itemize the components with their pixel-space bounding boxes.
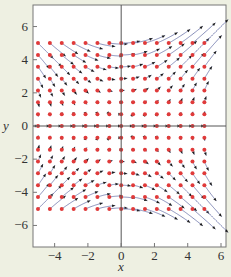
sample-point	[143, 65, 147, 69]
sample-point	[95, 53, 99, 57]
y-tick-label: 4	[22, 52, 29, 67]
sample-point	[190, 171, 194, 175]
sample-point	[179, 136, 183, 140]
sample-point	[36, 53, 40, 57]
sample-point	[107, 207, 111, 211]
sample-point	[48, 77, 52, 81]
sample-point	[72, 100, 76, 104]
sample-point	[84, 65, 88, 69]
sample-point	[167, 65, 171, 69]
sample-point	[179, 41, 183, 45]
sample-point	[95, 88, 99, 92]
sample-point	[155, 77, 159, 81]
sample-point	[107, 53, 111, 57]
sample-point	[60, 112, 64, 116]
sample-point	[72, 183, 76, 187]
sample-point	[190, 160, 194, 164]
sample-point	[72, 41, 76, 45]
x-tick-label: −4	[48, 248, 62, 263]
sample-point	[95, 171, 99, 175]
sample-point	[60, 183, 64, 187]
sample-point	[167, 207, 171, 211]
y-tick-label: −4	[14, 184, 28, 199]
sample-point	[84, 195, 88, 199]
sample-point	[190, 65, 194, 69]
sample-point	[131, 100, 135, 104]
sample-point	[131, 77, 135, 81]
sample-point	[84, 53, 88, 57]
x-tick-label: 6	[218, 248, 225, 263]
sample-point	[179, 53, 183, 57]
sample-point	[36, 88, 40, 92]
x-tick-label: −2	[81, 248, 95, 263]
y-tick-label: 0	[22, 118, 29, 133]
sample-point	[60, 77, 64, 81]
sample-point	[179, 207, 183, 211]
sample-point	[95, 183, 99, 187]
sample-point	[167, 112, 171, 116]
sample-point	[167, 88, 171, 92]
sample-point	[202, 65, 206, 69]
sample-point	[190, 53, 194, 57]
sample-point	[72, 160, 76, 164]
sample-point	[131, 88, 135, 92]
sample-point	[107, 171, 111, 175]
sample-point	[131, 148, 135, 152]
sample-point	[190, 207, 194, 211]
sample-point	[84, 41, 88, 45]
sample-point	[131, 112, 135, 116]
sample-point	[202, 100, 206, 104]
sample-point	[36, 41, 40, 45]
sample-point	[202, 136, 206, 140]
sample-point	[48, 136, 52, 140]
sample-point	[155, 195, 159, 199]
sample-point	[48, 160, 52, 164]
sample-point	[179, 65, 183, 69]
sample-point	[202, 53, 206, 57]
sample-point	[143, 195, 147, 199]
sample-point	[131, 53, 135, 57]
sample-point	[179, 195, 183, 199]
sample-point	[60, 100, 64, 104]
sample-point	[167, 77, 171, 81]
sample-point	[202, 207, 206, 211]
sample-point	[60, 160, 64, 164]
sample-point	[36, 195, 40, 199]
sample-point	[179, 88, 183, 92]
sample-point	[167, 148, 171, 152]
x-tick-label: 2	[151, 248, 158, 263]
sample-point	[72, 65, 76, 69]
sample-point	[143, 88, 147, 92]
sample-point	[84, 112, 88, 116]
sample-point	[60, 195, 64, 199]
sample-point	[107, 41, 111, 45]
sample-point	[72, 53, 76, 57]
sample-point	[48, 171, 52, 175]
sample-point	[143, 171, 147, 175]
sample-point	[95, 136, 99, 140]
sample-point	[60, 65, 64, 69]
sample-point	[84, 171, 88, 175]
sample-point	[84, 88, 88, 92]
sample-point	[190, 195, 194, 199]
sample-point	[143, 148, 147, 152]
sample-point	[72, 88, 76, 92]
y-tick-label: −6	[14, 217, 28, 232]
sample-point	[84, 160, 88, 164]
sample-point	[155, 207, 159, 211]
sample-point	[107, 183, 111, 187]
sample-point	[167, 171, 171, 175]
sample-point	[179, 148, 183, 152]
sample-point	[202, 88, 206, 92]
sample-point	[95, 148, 99, 152]
sample-point	[155, 171, 159, 175]
sample-point	[155, 41, 159, 45]
sample-point	[72, 148, 76, 152]
sample-point	[179, 171, 183, 175]
y-tick-label: −2	[14, 151, 28, 166]
sample-point	[155, 160, 159, 164]
sample-point	[48, 148, 52, 152]
sample-point	[95, 77, 99, 81]
sample-point	[190, 183, 194, 187]
sample-point	[131, 183, 135, 187]
